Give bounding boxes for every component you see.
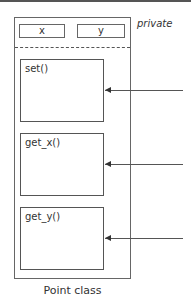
private-label: private [137, 18, 172, 29]
method-get-x: get_x() [20, 133, 104, 196]
arrow-left-icon [105, 164, 183, 165]
top-border-line [0, 0, 191, 2]
field-y: y [77, 24, 125, 38]
method-set: set() [20, 59, 104, 122]
arrow-left-icon [105, 238, 183, 239]
arrow-left-icon [105, 90, 183, 91]
field-x: x [19, 24, 65, 38]
private-divider [15, 47, 130, 48]
class-caption: Point class [14, 284, 131, 297]
method-get-y: get_y() [20, 207, 104, 270]
